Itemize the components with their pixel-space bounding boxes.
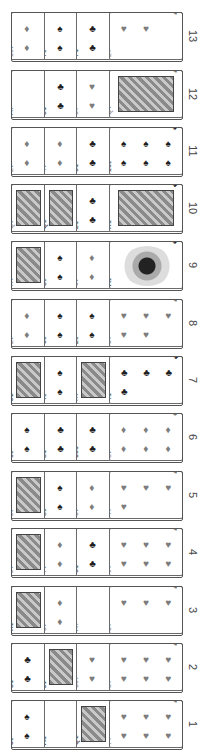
card-index: 8♦ bbox=[109, 451, 112, 458]
playing-card[interactable]: ♠♠5♠ bbox=[11, 700, 46, 748]
face-card-art bbox=[118, 190, 174, 226]
playing-card[interactable]: Q♣ bbox=[44, 184, 78, 232]
suit-pip-icon: ♣ bbox=[121, 368, 128, 378]
card-index-top: 4♣ bbox=[172, 356, 179, 359]
playing-card[interactable]: ♣♣3♣ bbox=[11, 643, 46, 691]
suit-pip-icon: ♣ bbox=[57, 82, 64, 92]
playing-card[interactable]: ♦♦5♦ bbox=[76, 241, 111, 289]
playing-card[interactable]: ♠♠♠♠♠♠10♠10♠ bbox=[109, 127, 183, 175]
suit-pip-icon: ♥ bbox=[121, 330, 127, 340]
playing-card[interactable]: ♥♥♥♥4♥4♥ bbox=[109, 471, 183, 519]
playing-card[interactable]: K♥ bbox=[11, 241, 46, 289]
playing-card[interactable]: A♥ bbox=[76, 586, 111, 634]
playing-card[interactable]: ♣♣5♣ bbox=[44, 70, 78, 118]
suit-pip-icon: ♣ bbox=[89, 24, 96, 34]
playing-card[interactable]: ♦♦♦♦♦♦8♦8♦ bbox=[109, 413, 183, 461]
suit-pip-icon: ♠ bbox=[121, 158, 126, 168]
playing-card[interactable]: ♠♠4♠ bbox=[44, 356, 78, 404]
playing-card[interactable]: K♣K♣ bbox=[109, 184, 183, 232]
suit-pip-icon: ♠ bbox=[57, 253, 62, 263]
playing-card[interactable]: ♣♣6♣ bbox=[76, 127, 111, 175]
playing-card[interactable]: ♦♦5♦ bbox=[44, 586, 78, 634]
playing-card[interactable]: ♥♥2♥2♥ bbox=[109, 12, 183, 60]
suit-pip-icon: ♠ bbox=[24, 712, 29, 722]
playing-card[interactable]: ♠♠8♠ bbox=[44, 471, 78, 519]
playing-card[interactable]: ♦♦4♦ bbox=[44, 127, 78, 175]
card-index: 7♠ bbox=[44, 49, 47, 57]
card-row-6: ♠♠6♠♣♣8♣♣♣10♣♦♦♦♦♦♦8♦8♦ bbox=[11, 413, 183, 463]
playing-card[interactable]: ♥♥10♥ bbox=[76, 643, 111, 691]
playing-card[interactable]: ♣♣6♣ bbox=[76, 528, 111, 576]
playing-card[interactable]: ♥♥♥♥♥5♥5♥ bbox=[109, 299, 183, 347]
card-index: 5♣ bbox=[44, 107, 47, 116]
suit-pip-icon: ♥ bbox=[143, 598, 149, 608]
suit-pip-icon: ♣ bbox=[89, 139, 96, 149]
card-index-top: 2♥ bbox=[172, 12, 179, 15]
suit-pip-icon: ♦ bbox=[57, 139, 62, 149]
card-index: A♥ bbox=[76, 622, 79, 631]
playing-card[interactable]: ♦♦5♦ bbox=[76, 471, 111, 519]
card-index: 5♦ bbox=[76, 509, 79, 516]
playing-card[interactable]: ♥♥♥♥♥♥7♥7♥ bbox=[109, 700, 183, 748]
playing-card[interactable]: ♣♣7♣ bbox=[76, 12, 111, 60]
playing-card[interactable]: A♠A♠ bbox=[109, 241, 183, 289]
playing-card[interactable]: Q♣ bbox=[76, 700, 111, 748]
playing-card[interactable]: ♦♦7♦ bbox=[44, 528, 78, 576]
suit-pip-icon: ♥ bbox=[89, 101, 95, 111]
face-card-art bbox=[16, 592, 41, 628]
playing-card[interactable]: ♥♥♥♥♥♥9♥9♥ bbox=[109, 528, 183, 576]
card-index: 6♥ bbox=[76, 107, 79, 115]
card-index: 5♦ bbox=[44, 624, 47, 631]
suit-pip-icon: ♦ bbox=[24, 158, 29, 168]
suit-pip-icon: ♥ bbox=[121, 655, 127, 665]
playing-card[interactable]: ♠♠6♠ bbox=[11, 413, 46, 461]
suit-pip-icon: ♣ bbox=[89, 444, 96, 454]
playing-card[interactable]: ♦♦10♦ bbox=[11, 12, 46, 60]
card-row-4: J♥♦♦7♦♣♣6♣♥♥♥♥♥♥9♥9♥ bbox=[11, 528, 183, 578]
suit-pip-icon: ♦ bbox=[24, 43, 29, 53]
playing-card[interactable]: Q♥Q♥ bbox=[109, 70, 183, 118]
card-index: 8♠ bbox=[44, 508, 47, 516]
playing-card[interactable]: A♣ bbox=[44, 700, 78, 748]
playing-card[interactable]: ♠♠2♠ bbox=[76, 299, 111, 347]
face-card-art bbox=[16, 477, 41, 513]
playing-card[interactable]: ♦♦2♦ bbox=[11, 127, 46, 175]
suit-pip-icon: ♥ bbox=[121, 540, 127, 550]
playing-card[interactable]: K♠ bbox=[11, 586, 46, 634]
playing-card[interactable]: Q♦ bbox=[11, 184, 46, 232]
card-index-top: A♠ bbox=[172, 241, 179, 244]
card-index-top: K♣ bbox=[172, 184, 179, 187]
suit-pip-icon: ♥ bbox=[143, 559, 149, 569]
card-index: J♣ bbox=[11, 393, 14, 401]
playing-card[interactable]: ♣♣10♣ bbox=[76, 413, 111, 461]
suit-pip-icon: ♠ bbox=[57, 43, 62, 53]
playing-card[interactable]: ♠♠6♠ bbox=[44, 299, 78, 347]
playing-card[interactable]: J♦ bbox=[11, 471, 46, 519]
suit-pip-icon: ♣ bbox=[89, 559, 96, 569]
playing-card[interactable]: A♦ bbox=[11, 70, 46, 118]
playing-card[interactable]: J♣ bbox=[11, 356, 46, 404]
playing-card[interactable]: ♦♦2♦ bbox=[11, 299, 46, 347]
playing-card[interactable]: ♥♥♥♥♥♥8♥8♥ bbox=[109, 643, 183, 691]
card-index: J♥ bbox=[11, 565, 14, 573]
playing-card[interactable]: K♦ bbox=[76, 356, 111, 404]
card-row-1: ♠♠5♠A♣Q♣♥♥♥♥♥♥7♥7♥ bbox=[11, 700, 183, 750]
suit-pip-icon: ♥ bbox=[143, 731, 149, 741]
row-number-label: 3 bbox=[187, 603, 199, 617]
playing-card[interactable]: ♣♣8♣ bbox=[44, 413, 78, 461]
suit-pip-icon: ♥ bbox=[166, 712, 172, 722]
playing-card[interactable]: J♥ bbox=[11, 528, 46, 576]
playing-card[interactable]: ♣♣♣♣4♣4♣ bbox=[109, 356, 183, 404]
suit-pip-icon: ♥ bbox=[89, 674, 95, 684]
suit-pip-icon: ♣ bbox=[57, 101, 64, 111]
playing-card[interactable]: ♥♥6♥ bbox=[76, 70, 111, 118]
playing-card[interactable]: ♥♥♥3♥3♥ bbox=[109, 586, 183, 634]
row-number-label: 5 bbox=[187, 488, 199, 502]
row-number-label: 9 bbox=[187, 258, 199, 272]
playing-card[interactable]: ♣♣2♣ bbox=[76, 184, 111, 232]
suit-pip-icon: ♣ bbox=[57, 425, 64, 435]
playing-card[interactable]: ♠♠7♠ bbox=[44, 12, 78, 60]
playing-card[interactable]: ♠♠3♠ bbox=[44, 241, 78, 289]
suit-pip-icon: ♥ bbox=[121, 598, 127, 608]
playing-card[interactable]: J♠ bbox=[44, 643, 78, 691]
